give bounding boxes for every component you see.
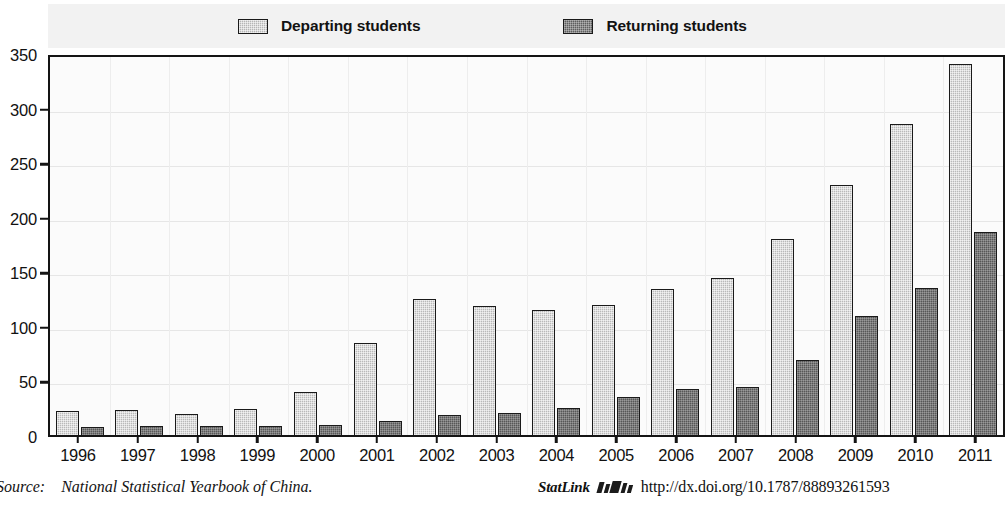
bar-returning[interactable] [676,389,699,435]
bar-returning[interactable] [915,288,938,435]
bar-returning[interactable] [796,360,819,435]
bar-departing[interactable] [473,306,496,435]
x-tick-cell: 1998 [168,437,228,469]
statlink-block[interactable]: StatLink http://dx.doi.org/10.1787/88893… [538,478,890,496]
bar-departing[interactable] [175,414,198,435]
source-text: National Statistical Yearbook of China. [61,478,312,495]
x-tick-mark [376,437,379,443]
bar-series-container [50,57,1003,435]
bar-returning[interactable] [855,316,878,435]
bar-departing[interactable] [592,305,615,435]
legend-entry-returning[interactable]: Returning students [563,4,746,48]
legend-swatch-departing-icon [238,19,268,34]
y-tick-label: 150 [10,264,37,283]
bar-departing[interactable] [711,278,734,435]
x-tick-cell: 2009 [826,437,886,469]
x-tick-mark [436,437,439,443]
x-tick-mark [735,437,738,443]
x-tick-mark [256,437,259,443]
bar-group[interactable] [765,57,825,435]
bar-returning[interactable] [259,426,282,435]
x-tick-label: 2000 [287,446,347,465]
bar-departing[interactable] [56,411,79,435]
bar-departing[interactable] [949,64,972,435]
bar-departing[interactable] [413,299,436,435]
y-tick-mark [40,217,48,220]
legend-entry-departing[interactable]: Departing students [238,4,420,48]
x-tick-mark [854,437,857,443]
bar-group[interactable] [824,57,884,435]
x-tick-label: 2006 [646,446,706,465]
x-tick-mark [675,437,678,443]
bar-departing[interactable] [234,409,257,435]
x-tick-cell: 2002 [407,437,467,469]
bar-returning[interactable] [557,408,580,435]
bar-returning[interactable] [200,426,223,435]
x-tick-cell: 2001 [347,437,407,469]
x-tick-mark [914,437,917,443]
plot-area [48,55,1005,437]
bar-returning[interactable] [438,415,461,435]
bar-departing[interactable] [294,392,317,435]
bar-returning[interactable] [498,413,521,435]
bar-departing[interactable] [890,124,913,435]
bar-group[interactable] [586,57,646,435]
y-tick-label: 0 [28,428,37,447]
legend-label-returning: Returning students [606,17,746,35]
bar-group[interactable] [229,57,289,435]
y-tick-mark [40,381,48,384]
y-tick-mark [40,163,48,166]
y-tick-label: 200 [10,209,37,228]
x-tick-label: 2005 [586,446,646,465]
bar-group[interactable] [467,57,527,435]
x-tick-cell: 2003 [467,437,527,469]
x-tick-label: 1996 [48,446,108,465]
x-tick-cell: 1996 [48,437,108,469]
bar-departing[interactable] [354,343,377,435]
statlink-label: StatLink [538,479,590,496]
x-tick-label: 2003 [467,446,527,465]
bar-departing[interactable] [830,185,853,435]
bar-group[interactable] [288,57,348,435]
bar-group[interactable] [50,57,110,435]
x-tick-label: 1997 [108,446,168,465]
x-tick-mark [974,437,977,443]
bar-departing[interactable] [115,410,138,435]
x-tick-cell: 2000 [287,437,347,469]
bar-group[interactable] [705,57,765,435]
bar-returning[interactable] [81,427,104,435]
bar-group[interactable] [407,57,467,435]
bar-returning[interactable] [974,232,997,435]
x-tick-cell: 1999 [227,437,287,469]
bar-group[interactable] [646,57,706,435]
bar-returning[interactable] [617,397,640,435]
bar-returning[interactable] [379,421,402,435]
bar-returning[interactable] [319,425,342,435]
bar-returning[interactable] [140,426,163,435]
x-tick-label: 2001 [347,446,407,465]
chart-footer: Source: National Statistical Yearbook of… [0,474,1005,505]
x-tick-mark [136,437,139,443]
legend-swatch-returning-icon [563,19,593,34]
bar-group[interactable] [884,57,944,435]
bar-departing[interactable] [771,239,794,435]
y-tick-label: 250 [10,155,37,174]
bar-departing[interactable] [532,310,555,436]
bar-group[interactable] [110,57,170,435]
x-tick-cell: 2007 [706,437,766,469]
bar-departing[interactable] [651,289,674,435]
x-tick-label: 2009 [826,446,886,465]
bar-group[interactable] [169,57,229,435]
y-tick-label: 300 [10,100,37,119]
x-tick-label: 2010 [885,446,945,465]
statlink-url[interactable]: http://dx.doi.org/10.1787/88893261593 [641,478,890,496]
x-tick-mark [316,437,319,443]
bar-group[interactable] [348,57,408,435]
bar-group[interactable] [943,57,1003,435]
bar-group[interactable] [527,57,587,435]
statlink-icon [598,481,632,494]
bar-returning[interactable] [736,387,759,435]
x-tick-label: 1999 [227,446,287,465]
x-tick-cell: 2010 [885,437,945,469]
x-tick-cell: 2004 [527,437,587,469]
